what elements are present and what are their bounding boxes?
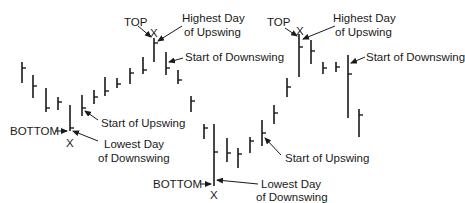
price-bar xyxy=(287,78,291,97)
price-bar xyxy=(250,137,254,153)
price-bar xyxy=(33,75,37,98)
price-bar xyxy=(105,77,109,96)
price-bar xyxy=(70,105,74,131)
price-bar xyxy=(166,52,170,75)
label-highest-day-left-1: Highest Day xyxy=(182,12,245,24)
label-start-upswing-right: Start of Upswing xyxy=(285,152,369,164)
price-bar xyxy=(191,96,195,112)
price-bar xyxy=(117,78,121,88)
price-bar xyxy=(94,90,98,104)
label-start-upswing-left: Start of Upswing xyxy=(101,117,185,129)
price-bar xyxy=(130,68,134,84)
label-top-x-right: X xyxy=(296,25,304,37)
label-start-downswing-left: Start of Downswing xyxy=(185,51,284,63)
label-highest-day-left-2: of Upswing xyxy=(184,26,241,38)
label-top-x-left: X xyxy=(150,27,158,39)
arrow-start-upswing-left xyxy=(85,111,98,120)
price-bar xyxy=(178,70,182,84)
price-bar xyxy=(82,95,86,116)
price-bar xyxy=(22,62,26,83)
price-bar xyxy=(336,62,340,72)
price-bar xyxy=(348,55,352,118)
label-bottom-x-right: X xyxy=(210,189,218,201)
price-bar xyxy=(238,148,242,168)
arrow-lowest-day-left xyxy=(73,131,98,141)
label-highest-day-right-2: of Upswing xyxy=(335,26,392,38)
price-bar xyxy=(274,105,278,124)
price-bar xyxy=(227,138,231,162)
arrow-start-downswing-left xyxy=(169,58,183,62)
label-highest-day-right-1: Highest Day xyxy=(333,12,396,24)
arrow-start-downswing-right xyxy=(351,57,365,63)
price-bar xyxy=(143,57,147,74)
arrow-highest-day-left xyxy=(158,26,182,41)
arrow-lowest-day-right xyxy=(217,180,258,184)
label-top-right: TOP xyxy=(267,16,290,28)
price-bar xyxy=(311,40,315,64)
arrow-start-upswing-right xyxy=(265,138,281,155)
price-bar xyxy=(154,38,158,62)
price-bar xyxy=(323,62,327,74)
arrow-highest-day-right xyxy=(303,26,335,39)
label-bottom-x-left: X xyxy=(66,137,74,149)
price-bar xyxy=(46,88,50,112)
label-start-downswing-right: Start of Downswing xyxy=(366,51,465,63)
price-bar xyxy=(214,124,218,186)
label-top-left: TOP xyxy=(124,16,147,28)
label-lowest-day-right-1: Lowest Day xyxy=(261,178,321,190)
price-bar xyxy=(359,109,363,137)
price-bar xyxy=(299,34,303,77)
label-lowest-day-right-2: of Downswing xyxy=(256,191,328,203)
label-bottom-left: BOTTOM xyxy=(10,125,59,137)
label-lowest-day-left-1: Lowest Day xyxy=(104,138,164,150)
price-bar xyxy=(204,124,208,139)
label-lowest-day-left-2: of Downswing xyxy=(98,152,170,164)
price-bar xyxy=(262,120,266,146)
label-bottom-right: BOTTOM xyxy=(153,178,202,190)
price-bar xyxy=(58,97,62,110)
